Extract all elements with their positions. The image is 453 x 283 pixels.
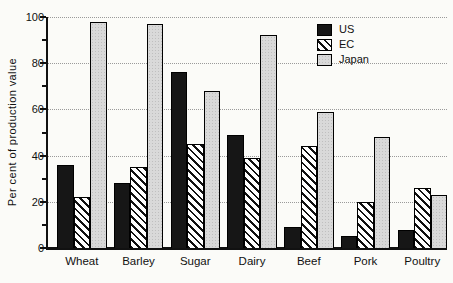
grouped-bar-chart: Per cent of production value WheatBarley… (0, 0, 453, 283)
bar-group-poultry: Poultry (398, 17, 448, 248)
plot-area: WheatBarleySugarDairyBeefPorkPoultry (48, 17, 447, 248)
bar-group-sugar: Sugar (171, 17, 221, 248)
bar-group-barley: Barley (114, 17, 164, 248)
legend-label: EC (339, 38, 354, 51)
y-axis-title-text: Per cent of production value (6, 58, 18, 206)
legend-swatch-us (317, 24, 332, 36)
x-axis-category-label: Poultry (404, 255, 440, 267)
bar-us-barley (114, 183, 131, 248)
legend-swatch-japan (317, 54, 332, 66)
bar-us-poultry (398, 230, 415, 248)
y-axis-tick-minor (42, 178, 46, 180)
bar-japan-dairy (260, 35, 277, 248)
x-axis-category-label: Barley (122, 255, 155, 267)
bar-us-dairy (227, 135, 244, 248)
y-axis-tick-label: 80 (12, 57, 44, 69)
bar-ec-sugar (187, 144, 204, 248)
bar-ec-dairy (244, 158, 261, 248)
legend: USECJapan (317, 22, 369, 67)
bar-us-pork (341, 236, 358, 248)
bar-us-sugar (171, 72, 188, 248)
y-axis-tick-minor (42, 224, 46, 226)
bar-japan-sugar (204, 91, 221, 248)
y-axis-title: Per cent of production value (4, 17, 20, 248)
bar-us-wheat (57, 165, 74, 248)
bar-japan-wheat (90, 22, 107, 248)
y-axis-tick-label: 60 (12, 103, 44, 115)
x-axis-category-label: Beef (297, 255, 321, 267)
legend-label: US (339, 23, 354, 36)
bar-ec-pork (357, 202, 374, 248)
y-axis-tick-label: 100 (12, 11, 44, 23)
y-axis-tick-minor (42, 132, 46, 134)
y-axis-tick-label: 0 (12, 242, 44, 254)
bar-us-beef (284, 227, 301, 248)
y-axis-tick-label: 40 (12, 150, 44, 162)
y-axis-tick-minor (42, 39, 46, 41)
bar-group-wheat: Wheat (57, 17, 107, 248)
y-axis-tick-label: 20 (12, 196, 44, 208)
bar-japan-pork (374, 137, 391, 248)
y-axis-line (46, 17, 48, 249)
legend-label: Japan (339, 53, 369, 66)
bar-japan-poultry (431, 195, 448, 248)
bar-japan-barley (147, 24, 164, 248)
x-axis-category-label: Dairy (239, 255, 266, 267)
legend-item-ec: EC (317, 37, 369, 52)
bar-ec-poultry (414, 188, 431, 248)
x-axis-category-label: Wheat (65, 255, 98, 267)
legend-item-us: US (317, 22, 369, 37)
bar-group-dairy: Dairy (227, 17, 277, 248)
x-axis-category-label: Sugar (180, 255, 211, 267)
bar-ec-barley (130, 167, 147, 248)
legend-item-japan: Japan (317, 52, 369, 67)
legend-swatch-ec (317, 39, 332, 51)
bar-ec-beef (301, 146, 318, 248)
x-axis-category-label: Pork (354, 255, 378, 267)
bar-ec-wheat (74, 197, 91, 248)
bar-japan-beef (317, 112, 334, 248)
y-axis-tick-minor (42, 85, 46, 87)
